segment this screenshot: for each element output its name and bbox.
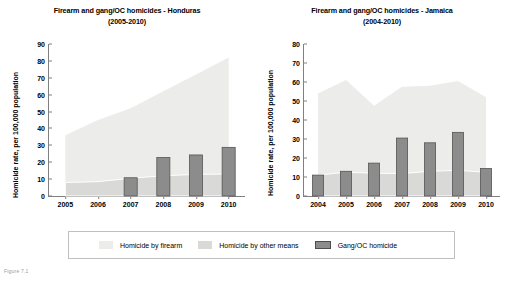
plot-area-jamaica: 0102030405060708020042005200620072008200… [303,44,500,197]
x-axis-tick-2007: 2007 [123,196,139,208]
bar-gang-oc-homicide-2004 [312,175,323,196]
y-axis-tick: 80 [292,41,304,48]
bar-gang-oc-homicide-2009 [189,155,202,196]
legend-label: Homicide by other means [219,242,298,249]
y-axis-tick: 30 [292,136,304,143]
x-axis-tick-2006: 2006 [366,196,382,208]
legend-swatch-gang-icon [315,241,331,249]
y-axis-label-jamaica: Homicide rate, per 100,000 population [267,70,274,196]
y-axis-tick: 70 [37,74,49,81]
y-axis-tick: 0 [41,193,49,200]
bar-gang-oc-homicide-2010 [480,168,491,196]
plot-area-honduras: 0102030405060708090200520062007200820092… [48,44,245,197]
bar-gang-oc-homicide-2007 [124,178,137,196]
y-axis-tick: 70 [292,60,304,67]
y-axis-tick: 50 [37,108,49,115]
chart-panel-honduras: Firearm and gang/OC homicides - Honduras… [0,0,254,222]
bar-gang-oc-homicide-2009 [452,132,463,196]
x-axis-tick-2005: 2005 [58,196,74,208]
x-axis-tick-2008: 2008 [422,196,438,208]
x-axis-tick-2009: 2009 [450,196,466,208]
chart-title-honduras: Firearm and gang/OC homicides - Honduras… [14,6,240,27]
y-axis-tick: 20 [37,159,49,166]
chart-title-sub: (2004-2010) [269,17,495,28]
legend-swatch-other-icon [198,241,212,249]
legend-item-firearm: Homicide by firearm [99,241,182,249]
x-axis-tick-2008: 2008 [156,196,172,208]
figure-caption: Figure 7.1 [4,268,29,274]
chart-title-jamaica: Firearm and gang/OC homicides - Jamaica … [269,6,495,27]
chart-legend: Homicide by firearmHomicide by other mea… [68,231,455,259]
y-axis-tick: 10 [37,176,49,183]
legend-item-other: Homicide by other means [198,241,298,249]
y-axis-tick: 0 [296,193,304,200]
x-axis-tick-2005: 2005 [338,196,354,208]
chart-title-main: Firearm and gang/OC homicides - Honduras [54,6,201,15]
chart-svg [304,44,500,196]
y-axis-tick: 40 [292,117,304,124]
chart-title-sub: (2005-2010) [14,17,240,28]
y-axis-tick: 60 [37,91,49,98]
y-axis-tick: 60 [292,79,304,86]
legend-swatch-firearm-icon [99,241,113,249]
x-axis-tick-2010: 2010 [478,196,494,208]
y-axis-tick: 50 [292,98,304,105]
x-axis-tick-2004: 2004 [310,196,326,208]
bar-gang-oc-homicide-2010 [222,147,235,196]
legend-item-gang: Gang/OC homicide [315,241,398,249]
chart-title-main: Firearm and gang/OC homicides - Jamaica [311,6,453,15]
chart-svg [49,44,245,196]
y-axis-tick: 20 [292,155,304,162]
bar-gang-oc-homicide-2005 [340,171,351,196]
y-axis-label-honduras: Homicide rate, per 100,000 population [12,72,19,198]
bar-gang-oc-homicide-2008 [424,143,435,196]
x-axis-tick-2010: 2010 [221,196,237,208]
y-axis-tick: 80 [37,57,49,64]
x-axis-tick-2006: 2006 [90,196,106,208]
bar-gang-oc-homicide-2008 [157,157,170,196]
y-axis-tick: 10 [292,174,304,181]
y-axis-tick: 40 [37,125,49,132]
x-axis-tick-2007: 2007 [394,196,410,208]
bar-gang-oc-homicide-2006 [368,163,379,196]
legend-label: Gang/OC homicide [338,242,398,249]
chart-panel-jamaica: Firearm and gang/OC homicides - Jamaica … [255,0,509,222]
y-axis-tick: 90 [37,41,49,48]
y-axis-tick: 30 [37,142,49,149]
legend-label: Homicide by firearm [120,242,182,249]
x-axis-tick-2009: 2009 [188,196,204,208]
bar-gang-oc-homicide-2007 [396,138,407,196]
figure-container: Firearm and gang/OC homicides - Honduras… [0,0,509,281]
